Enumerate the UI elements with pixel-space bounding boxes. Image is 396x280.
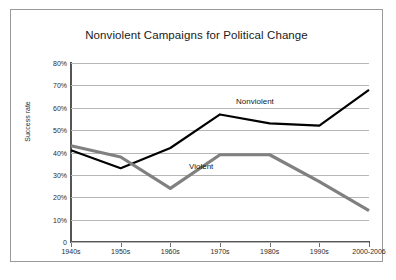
x-tick-mark — [369, 243, 370, 247]
x-tick-mark — [170, 243, 171, 247]
chart-title: Nonviolent Campaigns for Political Chang… — [11, 29, 382, 41]
x-tick-mark — [121, 243, 122, 247]
series-label-nonviolent: Nonviolent — [236, 97, 274, 106]
y-tick-label: 60% — [33, 104, 67, 111]
x-tick-mark — [270, 243, 271, 247]
y-tick-label: 80% — [33, 60, 67, 67]
y-tick-label: 70% — [33, 82, 67, 89]
y-axis-tick-labels: 010%20%30%40%50%60%70%80% — [31, 63, 67, 242]
plot-area — [71, 63, 369, 242]
x-tick-mark — [319, 243, 320, 247]
y-tick-label: 30% — [33, 171, 67, 178]
x-tick-mark — [220, 243, 221, 247]
series-line-violent — [71, 146, 369, 211]
y-tick-label: 0 — [33, 239, 67, 246]
series-lines — [71, 63, 369, 242]
x-axis-tick-labels: 1940s1950s1960s1970s1980s1990s2000-2006 — [71, 243, 369, 261]
y-tick-label: 20% — [33, 194, 67, 201]
chart-frame: Nonviolent Campaigns for Political Chang… — [10, 9, 383, 262]
series-label-violent: Violent — [189, 162, 213, 171]
y-axis-title: Success rate — [24, 82, 31, 162]
y-tick-label: 40% — [33, 149, 67, 156]
x-tick-mark — [71, 243, 72, 247]
y-tick-label: 10% — [33, 216, 67, 223]
x-tick-label: 2000-2006 — [339, 248, 396, 255]
y-tick-label: 50% — [33, 127, 67, 134]
